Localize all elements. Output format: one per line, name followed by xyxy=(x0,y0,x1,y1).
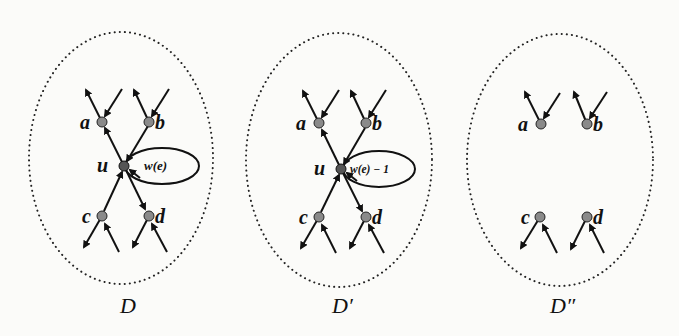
node-d xyxy=(582,212,592,222)
node-a xyxy=(314,118,324,128)
label-c: c xyxy=(521,206,530,228)
dotted-boundary xyxy=(467,34,653,286)
node-c xyxy=(535,212,545,222)
caption-D-double-prime: D″ xyxy=(549,293,576,318)
node-b xyxy=(361,118,371,128)
node-a xyxy=(97,117,107,127)
label-b: b xyxy=(372,112,382,134)
edge-a-in xyxy=(105,89,122,116)
label-c: c xyxy=(299,206,308,228)
label-c: c xyxy=(82,205,91,227)
node-b xyxy=(582,119,592,129)
label-a: a xyxy=(80,111,90,133)
node-d xyxy=(144,211,154,221)
label-b: b xyxy=(155,111,165,133)
edge-c-in xyxy=(543,225,557,253)
edge-c-to-u xyxy=(321,175,339,212)
edge-u-to-d xyxy=(126,170,145,209)
edge-c-to-u xyxy=(104,172,122,211)
node-c xyxy=(314,212,324,222)
node-d xyxy=(361,212,371,222)
loop-weight-label: w(e) − 1 xyxy=(350,163,389,176)
label-u: u xyxy=(314,157,325,179)
edge-a-in xyxy=(544,93,560,118)
edge-c-in xyxy=(105,224,119,252)
loop-weight-label: w(e) xyxy=(144,158,167,173)
caption-D-prime: D′ xyxy=(331,293,354,318)
panel-D-double-prime: a b c d D″ xyxy=(467,34,653,318)
node-a xyxy=(536,119,546,129)
edge-b-to-u xyxy=(344,128,365,164)
panel-D-prime: a b u c d w(e) − 1 D′ xyxy=(246,33,432,318)
edge-c-in xyxy=(322,225,336,253)
node-u xyxy=(119,161,129,171)
edge-d-in xyxy=(152,224,167,252)
caption-D: D xyxy=(119,293,136,318)
label-d: d xyxy=(155,205,166,227)
edge-d-in xyxy=(369,225,384,253)
panel-D: a b u c d w(e) D xyxy=(29,32,213,318)
node-u xyxy=(336,164,346,174)
diagram-canvas: a b u c d w(e) D a xyxy=(0,0,679,336)
edge-u-to-d xyxy=(343,173,362,211)
edge-a-in xyxy=(322,90,339,117)
edge-d-in xyxy=(590,225,604,253)
label-a: a xyxy=(518,113,528,135)
label-d: d xyxy=(372,206,383,228)
node-c xyxy=(97,211,107,221)
node-b xyxy=(144,117,154,127)
label-a: a xyxy=(296,112,306,134)
label-u: u xyxy=(97,154,108,176)
dotted-boundary xyxy=(246,33,432,287)
label-b: b xyxy=(593,113,603,135)
label-d: d xyxy=(593,206,604,228)
